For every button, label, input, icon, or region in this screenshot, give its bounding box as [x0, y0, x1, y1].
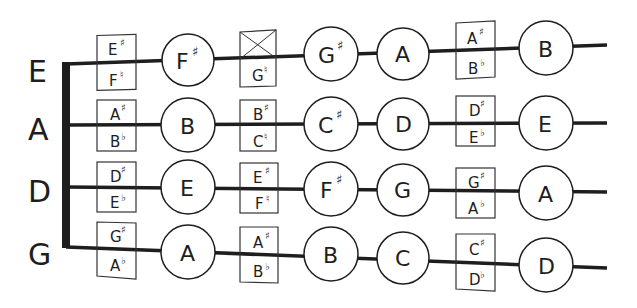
- box-bottom-note: B: [253, 263, 263, 281]
- sharp-icon: ♯: [480, 170, 485, 181]
- note-circle: F ♯: [304, 162, 358, 216]
- note-circle: C ♯: [304, 97, 358, 151]
- circle-note: D: [395, 112, 412, 137]
- note-circle: A: [519, 166, 573, 220]
- circle-note: A: [180, 241, 195, 266]
- box-top-note: A: [253, 234, 264, 252]
- box-top-note: A: [110, 106, 121, 124]
- sharp-icon: ♯: [264, 102, 269, 113]
- sharp-icon: ♯: [480, 98, 485, 109]
- box-bottom-note: D: [469, 271, 481, 289]
- circle-note: F: [320, 178, 333, 203]
- circle-note: B: [180, 114, 195, 139]
- box-bottom-note: A: [468, 200, 479, 218]
- circle-note: G: [318, 43, 335, 68]
- circle-note: F: [176, 49, 189, 74]
- box-bottom-note: E: [110, 194, 119, 212]
- circle-note: A: [395, 42, 410, 67]
- flat-icon: ♭: [480, 198, 485, 209]
- note-box: D ♯ E ♭: [456, 96, 495, 147]
- sharp-icon: ♯: [121, 164, 126, 175]
- string-label: E: [28, 54, 47, 89]
- box-bottom-note: C: [253, 133, 263, 151]
- note-circle: G ♯: [304, 27, 358, 81]
- box-bottom-note: A: [110, 257, 121, 275]
- string-row-e: E E ♯ F ♮ F ♯ G ♮ G ♯ A: [28, 21, 607, 90]
- box-top-note: D: [110, 168, 122, 186]
- flat-icon: ♭: [265, 261, 270, 272]
- string-row-a: A A ♯ B ♭ B B ♯ C ♮ C ♯ D: [28, 96, 607, 152]
- natural-icon: ♮: [266, 193, 270, 204]
- string-row-d: D D ♯ E ♭ E E ♯ F ♮ F ♯ G: [28, 160, 607, 220]
- flat-icon: ♭: [121, 255, 126, 266]
- string-label: A: [28, 112, 49, 147]
- box-bottom-note: B: [110, 133, 120, 151]
- circle-note: E: [538, 112, 552, 137]
- flat-icon: ♭: [480, 269, 485, 280]
- note-circle: B: [519, 21, 573, 75]
- box-top-note: B: [253, 106, 263, 124]
- nut-bar: [62, 62, 70, 248]
- box-bottom-note: F: [255, 195, 264, 213]
- flat-icon: ♭: [121, 192, 126, 203]
- circle-note: C: [395, 246, 410, 271]
- natural-icon: ♮: [264, 131, 268, 142]
- box-bottom-note: F: [109, 72, 118, 90]
- sharp-icon: ♯: [121, 224, 126, 235]
- string-label: G: [28, 237, 51, 272]
- flat-icon: ♭: [480, 57, 485, 68]
- circle-note: A: [538, 182, 553, 207]
- sharp-icon: ♯: [480, 237, 485, 248]
- box-top-note: E: [253, 169, 262, 187]
- box-bottom-note: B: [468, 60, 478, 78]
- natural-icon: ♮: [120, 69, 124, 80]
- note-circle: A: [161, 225, 215, 279]
- note-circle: G: [377, 164, 429, 216]
- note-circle: C: [377, 232, 429, 284]
- circle-note: E: [180, 176, 194, 201]
- note-circle: B: [304, 227, 358, 281]
- note-circle: D: [377, 98, 429, 150]
- sharp-icon: ♯: [336, 107, 342, 122]
- sharp-icon: ♯: [479, 26, 484, 37]
- flat-icon: ♭: [121, 131, 126, 142]
- circle-note: G: [394, 178, 411, 203]
- natural-icon: ♮: [264, 64, 268, 75]
- box-top-note: A: [467, 30, 478, 48]
- circle-note: B: [323, 243, 338, 268]
- circle-note: D: [538, 254, 555, 279]
- fingerboard-diagram: E E ♯ F ♮ F ♯ G ♮ G ♯ A: [0, 0, 637, 308]
- box-top-note: G: [110, 228, 122, 246]
- sharp-icon: ♯: [192, 44, 198, 59]
- box-bottom-note: E: [469, 129, 478, 147]
- note-box: G ♯ A ♭: [456, 168, 495, 218]
- box-top-note: E: [108, 41, 117, 59]
- sharp-icon: ♯: [120, 37, 125, 48]
- note-circle: E: [161, 160, 215, 214]
- sharp-icon: ♯: [337, 38, 343, 53]
- circle-note: C: [318, 113, 333, 138]
- note-circle: A: [377, 28, 429, 80]
- flat-icon: ♭: [480, 127, 485, 138]
- sharp-icon: ♯: [265, 165, 270, 176]
- string-row-g: G G ♯ A ♭ A A ♯ B ♭ B C C: [28, 222, 607, 292]
- note-circle: F ♯: [162, 34, 214, 86]
- sharp-icon: ♯: [121, 102, 126, 113]
- note-circle: D: [519, 238, 573, 292]
- circle-note: B: [538, 37, 553, 62]
- note-circle: B: [161, 98, 215, 152]
- note-circle: E: [519, 96, 573, 150]
- box-bottom-note: G: [252, 67, 264, 85]
- box-top-note: C: [469, 241, 479, 259]
- string-label: D: [28, 174, 51, 209]
- box-top-note: G: [468, 174, 480, 192]
- sharp-icon: ♯: [336, 172, 342, 187]
- box-top-note: D: [469, 102, 481, 120]
- sharp-icon: ♯: [265, 230, 270, 241]
